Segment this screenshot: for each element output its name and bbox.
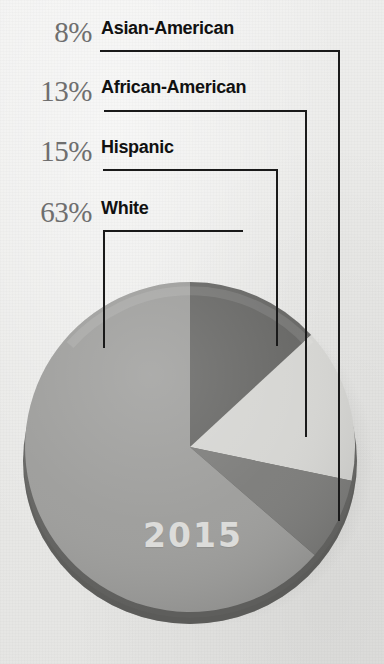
pie-chart-svg: [0, 0, 384, 664]
pie-chart: 2015: [0, 0, 384, 664]
pie-slices: [25, 282, 355, 612]
infographic-page: 8% Asian-American 13% African-American 1…: [0, 0, 384, 664]
pie-year-label: 2015: [118, 516, 268, 555]
